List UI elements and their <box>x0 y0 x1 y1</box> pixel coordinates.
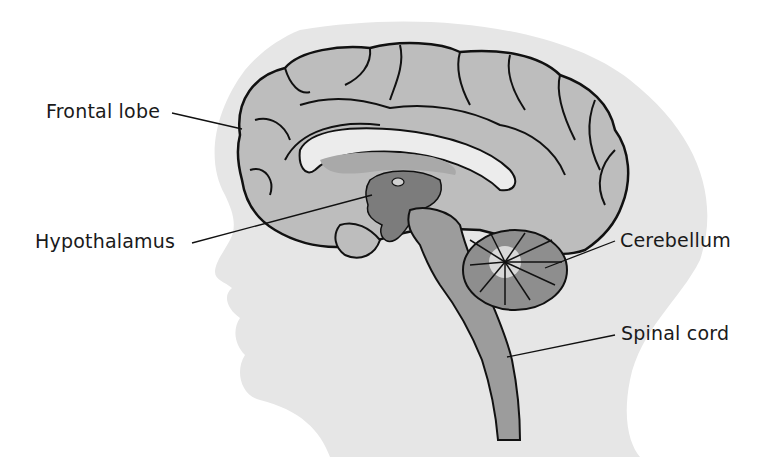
label-spinal-cord: Spinal cord <box>621 322 729 344</box>
cerebellum-shape <box>463 230 567 310</box>
label-frontal-lobe: Frontal lobe <box>46 100 160 122</box>
label-cerebellum: Cerebellum <box>620 229 731 251</box>
label-hypothalamus: Hypothalamus <box>35 230 175 252</box>
brain-diagram: Frontal lobe Hypothalamus Cerebellum Spi… <box>0 0 781 457</box>
